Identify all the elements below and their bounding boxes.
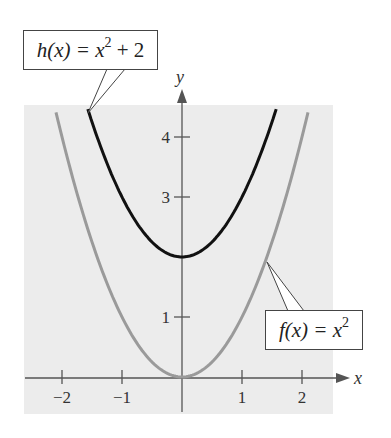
plot-panel (24, 105, 333, 414)
h-callout-arg: (x) = x (47, 38, 104, 62)
y-axis-arrow-icon (177, 89, 187, 103)
h-callout-fn: h (37, 38, 48, 62)
x-tick-label: 1 (238, 388, 247, 407)
h-callout-exp: 2 (104, 35, 111, 50)
h-callout-tail: + 2 (111, 38, 144, 62)
f-callout-exp: 2 (342, 315, 349, 330)
y-tick-label: 3 (162, 188, 171, 207)
h-callout: h(x) = x2 + 2 (23, 30, 158, 70)
y-tick-label: 4 (162, 128, 171, 147)
x-tick-label: −2 (53, 388, 71, 407)
x-tick-label: 2 (298, 388, 307, 407)
f-callout: f(x) = x2 (265, 310, 363, 350)
f-callout-arg: (x) = x (285, 318, 342, 342)
y-axis-label: y (174, 67, 184, 87)
x-axis-label: x (353, 368, 362, 388)
y-tick-label: 1 (162, 308, 171, 327)
x-axis-arrow-icon (336, 373, 350, 383)
x-tick-label: −1 (113, 388, 131, 407)
